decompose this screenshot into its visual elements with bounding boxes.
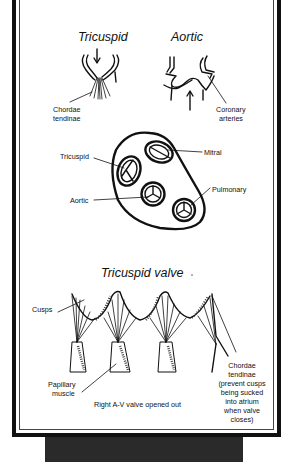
chordae-note-line: (prevent cusps — [218, 379, 266, 388]
opened-valve-caption: Right A-V valve opened out — [94, 400, 181, 409]
coronary-label-line2: arteries — [219, 114, 243, 123]
tricuspid-valve-title: Tricuspid valve — [101, 266, 183, 280]
papillary-label-line2: muscle — [52, 389, 75, 398]
chordae-note-line: being sucked — [221, 388, 263, 397]
tricuspid-title: Tricuspid — [78, 30, 129, 44]
chordae-note-line: into atrium — [225, 397, 259, 406]
cusps-label: Cusps — [32, 305, 53, 314]
heart-valves-diagram: Tricuspid Chordae tendinae Aortic Corona… — [0, 0, 284, 462]
chordae-note-line: closes) — [231, 415, 254, 424]
aortic-ring-label: Aortic — [70, 196, 89, 205]
chordae-note-line: tendinae — [228, 370, 256, 379]
valve-cross-section-drawing — [94, 133, 210, 230]
chordae-label-line2: tendinae — [53, 114, 81, 123]
tricuspid-side-view-drawing — [70, 49, 119, 102]
mitral-ring-label: Mitral — [204, 148, 222, 157]
chordae-note-line: Chordae — [228, 361, 256, 370]
chordae-label-line1: Chordae — [53, 105, 81, 114]
stray-mark — [191, 274, 193, 276]
chordae-note: Chordae tendinae (prevent cusps being su… — [218, 361, 266, 424]
pulmonary-ring-label: Pulmonary — [212, 185, 247, 194]
coronary-label-line1: Coronary — [216, 105, 246, 114]
tricuspid-ring-label: Tricuspid — [60, 152, 89, 161]
aortic-title: Aortic — [170, 30, 204, 44]
papillary-label-line1: Papillary — [48, 380, 76, 389]
opened-valve-drawing — [58, 292, 236, 393]
chordae-note-line: when valve — [223, 406, 260, 415]
aortic-side-view-drawing — [164, 56, 226, 110]
